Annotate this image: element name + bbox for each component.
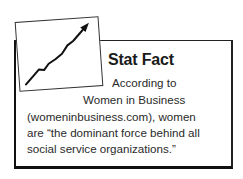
stat-fact-text-line: According to (112, 76, 176, 89)
stat-fact-text-line: Women in Business (83, 93, 185, 106)
stat-fact-title: Stat Fact (108, 51, 174, 69)
rising-line-chart-icon (15, 16, 104, 92)
stat-fact-text-line: are “the dominant force behind all (27, 126, 200, 139)
stat-fact-text-line: (womeninbusiness.com), women (27, 110, 196, 123)
stat-fact-text-line: social service organizations.” (27, 142, 176, 155)
